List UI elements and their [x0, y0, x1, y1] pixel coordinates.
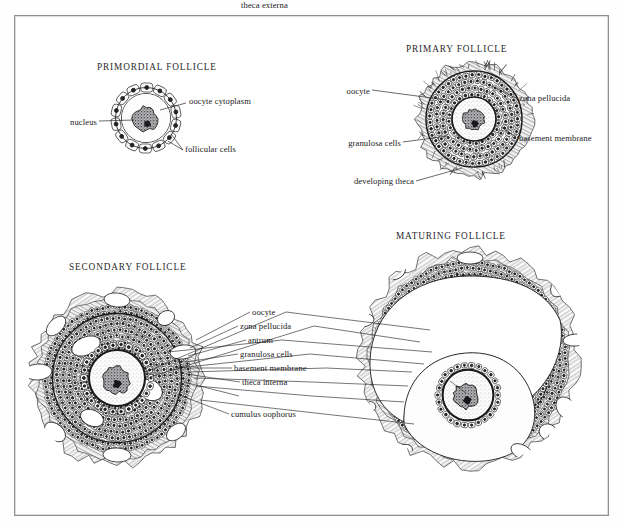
secondary-follicle-drawing	[23, 287, 205, 468]
maturing-follicle-drawing	[350, 246, 607, 471]
label-primary-oocyte: oocyte	[332, 86, 370, 96]
panel-heading-primary: PRIMARY FOLLICLE	[406, 44, 507, 54]
panel-heading-primordial: PRIMORDIAL FOLLICLE	[97, 62, 217, 72]
label-shared-theca-externa: theca externa	[241, 0, 288, 10]
label-nucleus: nucleus	[45, 117, 97, 127]
label-primary-basement-membrane: basement membrane	[519, 133, 592, 143]
label-shared-theca-interna: theca interna	[242, 377, 287, 387]
label-shared-antrum: antrum	[248, 335, 273, 345]
panel-heading-maturing: MATURING FOLLICLE	[396, 231, 506, 241]
primordial-follicle-drawing	[99, 83, 186, 153]
label-primary-developing-theca: developing theca	[330, 176, 414, 186]
label-primary-zona-pellucida: zona pellucida	[519, 93, 570, 103]
panel-heading-secondary: SECONDARY FOLLICLE	[69, 262, 186, 272]
label-shared-zona-pellucida: zona pellucida	[240, 321, 291, 331]
label-primary-granulosa-cells: granulosa cells	[327, 138, 401, 148]
primary-follicle-drawing	[372, 60, 535, 181]
label-shared-basement-membrane: basement membrane	[234, 363, 307, 373]
label-oocyte-cytoplasm: oocyte cytoplasm	[189, 96, 251, 106]
figure-page: PRIMORDIAL FOLLICLE PRIMARY FOLLICLE SEC…	[0, 0, 625, 526]
label-shared-oocyte: oocyte	[252, 307, 276, 317]
label-shared-granulosa-cells: granulosa cells	[240, 349, 293, 359]
label-follicular-cells: follicular cells	[185, 144, 236, 154]
label-shared-cumulus-oophorus: cumulus oophorus	[231, 409, 296, 419]
